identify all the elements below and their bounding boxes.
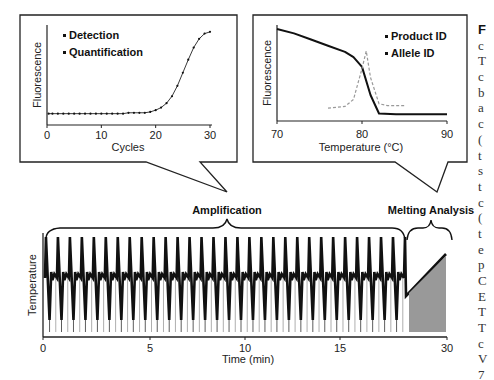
amplification-callout: 0102030CyclesFluorescenceDetectionQuanti…	[20, 15, 237, 192]
bullet-label: Product ID	[391, 30, 447, 42]
data-point	[209, 31, 211, 33]
bullet-icon	[385, 35, 388, 38]
caption-fragment: b	[478, 85, 494, 101]
x-tick-label: 5	[147, 342, 153, 354]
caption-fragment: C	[478, 273, 494, 289]
data-point	[187, 59, 189, 61]
data-point	[68, 113, 70, 115]
x-tick-label: 30	[441, 342, 453, 354]
caption-fragment: T	[478, 304, 494, 320]
data-point	[122, 113, 124, 115]
data-point	[95, 113, 97, 115]
data-point	[127, 112, 129, 114]
y-axis-label: Fluorescence	[261, 40, 273, 106]
caption-fragment: V	[478, 351, 494, 367]
caption-fragment: c	[478, 38, 494, 54]
amplification-brace	[46, 219, 405, 240]
data-point	[165, 102, 167, 104]
x-axis-label: Time (min)	[222, 353, 274, 365]
data-point	[79, 113, 81, 115]
x-tick-label: 0	[40, 342, 46, 354]
data-point	[149, 111, 151, 113]
caption-fragment: c	[478, 336, 494, 352]
data-point	[84, 113, 86, 115]
data-point	[106, 113, 108, 115]
data-point	[144, 112, 146, 114]
caption-fragment: a	[478, 100, 494, 116]
bullet-icon	[63, 34, 66, 37]
caption-fragment: F	[478, 22, 494, 38]
caption-fragment: (	[478, 132, 494, 148]
data-point	[51, 113, 53, 115]
y-axis-label: Temperature	[26, 254, 38, 316]
x-tick-label: 70	[271, 128, 283, 140]
data-point	[160, 106, 162, 108]
data-point	[176, 85, 178, 87]
melt-fill-area	[409, 256, 446, 332]
x-tick-label: 20	[150, 129, 162, 141]
melting-brace	[407, 220, 452, 240]
figure-canvas: 0102030CyclesFluorescenceDetectionQuanti…	[0, 0, 494, 380]
data-point	[193, 46, 195, 48]
callout-box-left	[20, 15, 237, 192]
cropped-caption-column: FcTcbac(tstc(tepCETTcV7	[478, 22, 494, 380]
data-point	[100, 113, 102, 115]
data-point	[182, 72, 184, 74]
x-tick-label: 15	[334, 342, 346, 354]
caption-fragment: c	[478, 116, 494, 132]
melting-callout: 708090Temperature (°C)FluorescenceProduc…	[253, 15, 467, 192]
thermal-cycling-chart: 05101530Time (min)TemperatureAmplificati…	[26, 204, 474, 365]
data-point	[203, 33, 205, 35]
data-point	[62, 113, 64, 115]
bullet-icon	[63, 51, 66, 54]
caption-fragment: e	[478, 242, 494, 258]
y-axis-label: Fluorescence	[31, 42, 43, 108]
data-point	[111, 113, 113, 115]
data-point	[117, 113, 119, 115]
caption-fragment: s	[478, 163, 494, 179]
data-point	[57, 113, 59, 115]
x-tick-label: 80	[356, 128, 368, 140]
caption-fragment: t	[478, 148, 494, 164]
x-axis-label: Temperature (°C)	[319, 141, 403, 153]
x-tick-label: 10	[95, 129, 107, 141]
x-tick-label: 90	[441, 128, 453, 140]
data-point	[138, 112, 140, 114]
phase-label-melting: Melting Analysis	[388, 204, 474, 216]
bullet-label: Allele ID	[391, 47, 434, 59]
caption-fragment: T	[478, 53, 494, 69]
caption-fragment: c	[478, 69, 494, 85]
caption-fragment: t	[478, 179, 494, 195]
data-point	[89, 113, 91, 115]
caption-fragment: T	[478, 320, 494, 336]
data-point	[73, 113, 75, 115]
x-tick-label: 30	[204, 129, 216, 141]
caption-fragment: c	[478, 195, 494, 211]
x-axis-label: Cycles	[111, 141, 145, 153]
data-point	[133, 112, 135, 114]
caption-fragment: E	[478, 289, 494, 305]
data-point	[48, 113, 50, 115]
bullet-icon	[385, 52, 388, 55]
x-tick-label: 0	[44, 129, 50, 141]
phase-label-amplification: Amplification	[192, 204, 262, 216]
bullet-label: Quantification	[69, 46, 143, 58]
caption-fragment: p	[478, 257, 494, 273]
data-point	[155, 109, 157, 111]
caption-fragment: t	[478, 226, 494, 242]
cycling-waveform	[45, 237, 404, 320]
caption-fragment: 7	[478, 367, 494, 380]
bullet-label: Detection	[69, 29, 119, 41]
data-point	[198, 38, 200, 40]
data-point	[171, 95, 173, 97]
caption-fragment: (	[478, 210, 494, 226]
